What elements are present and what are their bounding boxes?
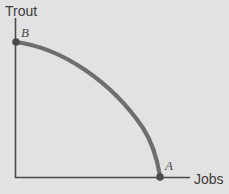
point-a-marker (156, 173, 164, 181)
x-axis-title: Jobs (194, 172, 224, 186)
point-label-b: B (21, 26, 29, 39)
chart-figure: Trout Jobs B A (0, 0, 229, 194)
ppf-curve (16, 42, 160, 176)
chart-plot-area (0, 0, 229, 194)
point-label-a: A (165, 159, 173, 172)
point-b-marker (12, 38, 20, 46)
y-axis-title: Trout (5, 4, 37, 18)
